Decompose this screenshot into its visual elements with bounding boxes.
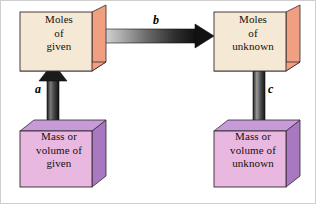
arrow-b bbox=[101, 24, 214, 48]
diagram-canvas: Moles of given Moles of unknown Mass or … bbox=[0, 0, 316, 204]
box-mass-given-top bbox=[20, 120, 106, 131]
box-mass-given-side bbox=[92, 120, 106, 187]
arrow-a bbox=[39, 63, 67, 129]
box-mass-unknown bbox=[214, 120, 300, 187]
box-moles-given bbox=[20, 5, 106, 71]
box-moles-unknown-face bbox=[214, 12, 286, 71]
box-moles-given-side bbox=[92, 5, 106, 71]
arrow-b-shaft bbox=[101, 29, 197, 43]
box-mass-unknown-side bbox=[286, 120, 300, 187]
arrow-c-shaft bbox=[253, 65, 265, 123]
box-mass-given-face bbox=[20, 131, 92, 187]
box-moles-unknown bbox=[214, 5, 300, 71]
box-mass-unknown-face bbox=[214, 131, 286, 187]
arrow-b-head bbox=[195, 24, 214, 48]
box-moles-unknown-side bbox=[286, 5, 300, 71]
box-moles-given-face bbox=[20, 12, 92, 71]
box-mass-unknown-top bbox=[214, 120, 300, 131]
diagram-svg bbox=[1, 1, 316, 204]
box-mass-given bbox=[20, 120, 106, 187]
